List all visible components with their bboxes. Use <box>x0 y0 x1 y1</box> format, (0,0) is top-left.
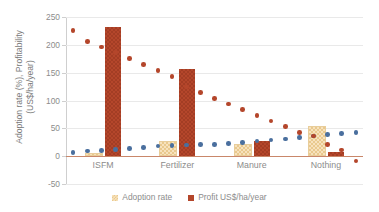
marker-profit-trend <box>269 119 274 124</box>
legend-swatch-profit <box>188 195 194 201</box>
gridline <box>66 17 363 18</box>
legend-swatch-adoption-rate <box>112 195 118 201</box>
y-axis-tick-label: 0 <box>34 152 60 160</box>
marker-profit-trend <box>212 96 217 101</box>
zero-line <box>66 156 363 157</box>
marker-profit-trend <box>141 62 146 67</box>
marker-adoption-trend <box>85 149 90 154</box>
y-axis-tick-label: 100 <box>34 97 60 105</box>
marker-profit-trend <box>226 102 231 107</box>
marker-profit-trend <box>283 124 288 129</box>
marker-adoption-trend <box>226 141 231 146</box>
marker-profit-trend <box>71 28 76 33</box>
gridline <box>66 184 363 185</box>
marker-adoption-trend <box>339 131 344 136</box>
y-axis-tick-label: 150 <box>34 69 60 77</box>
marker-profit-trend <box>170 74 175 79</box>
y-axis-tick-label: 250 <box>34 13 60 21</box>
y-axis-tick-label: 200 <box>34 41 60 49</box>
x-axis-tick-labels: ISFMFertilizerManureNothing <box>66 160 363 174</box>
y-axis-tick-labels: 250200150100500-50 <box>30 17 60 184</box>
marker-adoption-trend <box>198 142 203 147</box>
marker-profit-trend <box>113 50 118 55</box>
legend-item-profit[interactable]: Profit US$/ha/year <box>188 193 266 202</box>
x-axis-tick-label: Fertilizer <box>140 160 214 170</box>
chart-legend: Adoption rate Profit US$/ha/year <box>0 193 379 202</box>
marker-profit-trend <box>240 107 245 112</box>
legend-label-profit: Profit US$/ha/year <box>198 193 266 202</box>
bar-adoption-rate <box>159 141 177 156</box>
marker-profit-trend <box>184 85 189 90</box>
marker-adoption-trend <box>354 130 359 135</box>
marker-adoption-trend <box>297 135 302 140</box>
y-axis-tick-label: -50 <box>34 180 60 188</box>
marker-adoption-trend <box>240 140 245 145</box>
x-axis-tick-label: Nothing <box>289 160 363 170</box>
legend-label-adoption-rate: Adoption rate <box>122 193 172 202</box>
bar-profit <box>328 152 344 156</box>
marker-adoption-trend <box>269 138 274 143</box>
marker-adoption-trend <box>184 143 189 148</box>
marker-adoption-trend <box>325 132 330 137</box>
marker-profit-trend <box>85 39 90 44</box>
bar-adoption-rate <box>234 144 252 156</box>
marker-profit-trend <box>325 142 330 147</box>
marker-adoption-trend <box>127 146 132 151</box>
marker-adoption-trend <box>283 137 288 142</box>
chart-container: Adoption rate (%), Profitability (US$/ha… <box>0 0 379 212</box>
y-axis-tick-label: 50 <box>34 124 60 132</box>
x-axis-tick-label: Manure <box>215 160 289 170</box>
marker-profit-trend <box>127 56 132 61</box>
marker-profit-trend <box>255 113 260 118</box>
marker-adoption-trend <box>99 148 104 153</box>
marker-adoption-trend <box>71 150 76 155</box>
marker-profit-trend <box>156 68 161 73</box>
marker-adoption-trend <box>113 147 118 152</box>
plot-area <box>66 17 363 184</box>
bar-adoption-rate <box>85 153 103 157</box>
legend-item-adoption-rate[interactable]: Adoption rate <box>112 193 172 202</box>
marker-profit-trend <box>297 130 302 135</box>
marker-adoption-trend <box>141 145 146 150</box>
marker-profit-trend <box>99 45 104 50</box>
bar-profit <box>105 27 121 156</box>
x-axis-tick-label: ISFM <box>66 160 140 170</box>
bar-adoption-rate <box>308 126 326 156</box>
marker-profit-trend <box>198 90 203 95</box>
y-axis-title-line1: Adoption rate (%), Profitability <box>14 30 24 144</box>
marker-adoption-trend <box>212 142 217 147</box>
